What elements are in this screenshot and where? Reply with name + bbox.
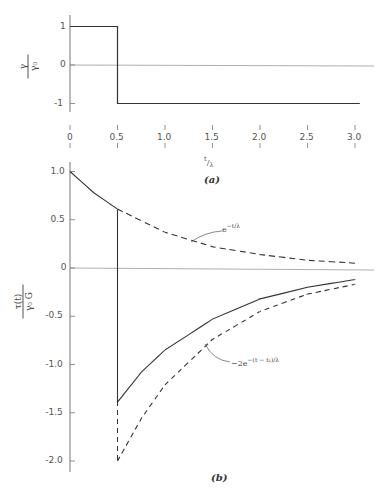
chart-b-response-line xyxy=(118,209,356,402)
chart-b-zero-line xyxy=(70,268,374,270)
chart-b-y-tick-label: 1.0 xyxy=(50,166,64,176)
annotation-exp-decay: e−t/λ xyxy=(222,222,240,234)
chart-b-y-label: τ(t) γ₀ G xyxy=(13,285,34,319)
chart-a-y-tick-label: -1 xyxy=(54,98,63,108)
chart-a-y-label: γ γ₀ xyxy=(18,55,39,79)
chart-b-y-tick-label: 0.5 xyxy=(50,214,64,224)
chart-a-x-tick-label: 1.5 xyxy=(205,132,219,142)
figure-canvas xyxy=(0,0,384,499)
chart-a-x-tick-label: 1.0 xyxy=(157,132,171,142)
chart-a-x-tick-label: 0.5 xyxy=(110,132,124,142)
chart-b-y-tick-label: -1.0 xyxy=(45,359,63,369)
chart-b-plot xyxy=(70,162,374,472)
chart-b-y-tick-label: -2.0 xyxy=(45,455,63,465)
chart-b-negative-exp-dashed xyxy=(118,284,356,461)
chart-a-x-tick-label: 2.5 xyxy=(300,132,314,142)
annotation-leader-neg xyxy=(205,344,230,362)
chart-a-x-label: t/λ xyxy=(204,155,214,169)
chart-b-y-tick-label: -1.5 xyxy=(45,407,63,417)
chart-b-y-label-num: τ(t) xyxy=(13,285,24,319)
chart-a-y-label-num: γ xyxy=(18,55,29,79)
chart-a-x-tick-label: 0 xyxy=(67,132,73,142)
chart-a-zero-line xyxy=(70,65,374,66)
chart-a-x-label-den: λ xyxy=(209,161,213,169)
chart-b-caption: (b) xyxy=(211,472,227,483)
chart-a-caption: (a) xyxy=(204,174,220,185)
chart-b-y-label-den: γ₀ G xyxy=(24,285,34,319)
chart-b-exp-decay-dashed xyxy=(118,209,356,263)
annotation-leader-exp xyxy=(191,231,222,242)
chart-a-y-tick-label: 0 xyxy=(60,59,66,69)
chart-a-x-tick-label: 3.0 xyxy=(347,132,361,142)
chart-a-y-label-den: γ₀ xyxy=(29,55,39,79)
chart-b-y-ticks xyxy=(70,172,75,462)
chart-b-y-tick-label: -0.5 xyxy=(45,310,63,320)
chart-a-y-tick-label: 1 xyxy=(60,21,66,31)
chart-b-exp-decay-solid xyxy=(70,172,118,210)
chart-a-plot xyxy=(70,15,374,148)
chart-a-x-label-num: t xyxy=(204,155,207,163)
chart-a-x-tick-label: 2.0 xyxy=(252,132,266,142)
chart-a-y-ticks xyxy=(70,27,75,104)
annotation-negative-exp: −2e−(t − t₁)/λ xyxy=(231,356,279,368)
chart-b-y-tick-label: 0 xyxy=(61,262,67,272)
